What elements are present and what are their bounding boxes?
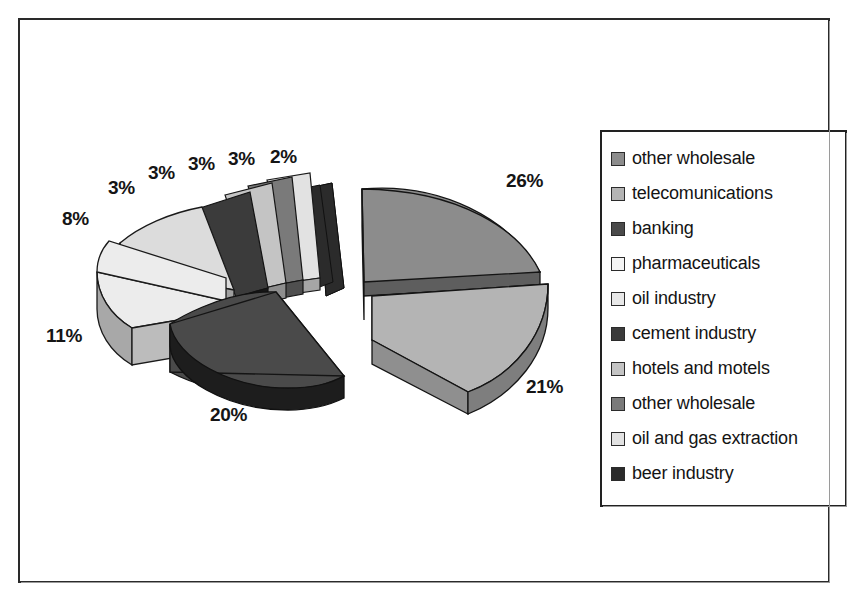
legend-swatch-icon	[611, 397, 625, 411]
legend-item-telecomunications[interactable]: telecomunications	[611, 176, 845, 211]
legend-swatch-icon	[611, 187, 625, 201]
legend-label: cement industry	[632, 323, 756, 344]
legend-label: other wholesale	[632, 148, 755, 169]
figure-frame: 26% 21% 20% 11% 8% 3% 3% 3% 3% 2% other …	[18, 18, 830, 583]
legend-label: beer industry	[632, 463, 733, 484]
legend-swatch-icon	[611, 432, 625, 446]
legend-label: oil industry	[632, 288, 716, 309]
legend-item-banking[interactable]: banking	[611, 211, 845, 246]
legend-swatch-icon	[611, 152, 625, 166]
pie-slice-21-telecomunications[interactable]	[372, 284, 548, 414]
legend-item-oil-industry[interactable]: oil industry	[611, 281, 845, 316]
legend-swatch-icon	[611, 467, 625, 481]
pie-slice-20-banking[interactable]	[170, 292, 344, 410]
legend-swatch-icon	[611, 362, 625, 376]
pie-label-8: 8%	[62, 208, 89, 230]
legend-swatch-icon	[611, 222, 625, 236]
pie-label-26: 26%	[506, 170, 543, 192]
legend-swatch-icon	[611, 327, 625, 341]
pie-label-3-c: 3%	[188, 153, 215, 175]
legend-label: pharmaceuticals	[632, 253, 760, 274]
legend-item-pharmaceuticals[interactable]: pharmaceuticals	[611, 246, 845, 281]
legend-swatch-icon	[611, 292, 625, 306]
legend-label: oil and gas extraction	[632, 428, 798, 449]
legend-label: telecomunications	[632, 183, 773, 204]
pie-label-3-b: 3%	[148, 162, 175, 184]
pie-label-21: 21%	[526, 376, 563, 398]
legend-item-other-wholesale[interactable]: other wholesale	[611, 141, 845, 176]
legend-item-other-wholesale-2[interactable]: other wholesale	[611, 386, 845, 421]
pie-label-3-a: 3%	[108, 177, 135, 199]
pie-label-20: 20%	[210, 404, 247, 426]
legend-label: other wholesale	[632, 393, 755, 414]
legend-item-hotels-and-motels[interactable]: hotels and motels	[611, 351, 845, 386]
legend-label: banking	[632, 218, 694, 239]
legend-item-cement-industry[interactable]: cement industry	[611, 316, 845, 351]
pie-label-11: 11%	[46, 325, 82, 347]
legend-swatch-icon	[611, 257, 625, 271]
pie-label-3-d: 3%	[228, 148, 255, 170]
legend-item-oil-and-gas-extraction[interactable]: oil and gas extraction	[611, 421, 845, 456]
legend-item-beer-industry[interactable]: beer industry	[611, 456, 845, 491]
chart-legend: other wholesale telecomunications bankin…	[600, 130, 847, 507]
pie-label-2: 2%	[270, 146, 297, 168]
legend-label: hotels and motels	[632, 358, 770, 379]
